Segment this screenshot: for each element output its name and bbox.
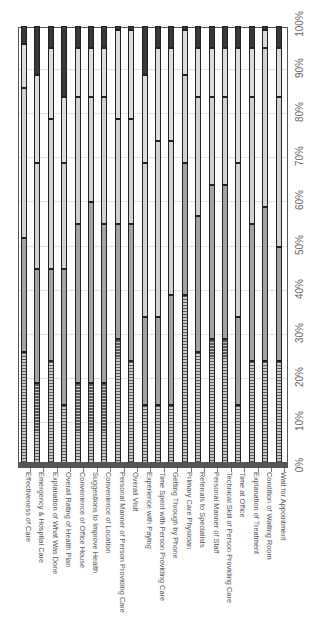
bar-segment-6 bbox=[168, 26, 174, 48]
x-tick bbox=[217, 468, 218, 472]
bar-segment-6 bbox=[209, 26, 215, 48]
bar-segment-5 bbox=[249, 48, 255, 97]
gridline bbox=[19, 334, 287, 335]
bar-segment-5 bbox=[21, 44, 27, 88]
bar-segment-6 bbox=[88, 26, 94, 48]
bar-segment-5 bbox=[195, 48, 201, 97]
bar-segment-5 bbox=[88, 48, 94, 97]
x-tick bbox=[271, 468, 272, 472]
x-tick bbox=[244, 468, 245, 472]
category-label: Personal Manner of Person Providing Care bbox=[118, 472, 126, 622]
bar-segment-5 bbox=[182, 30, 188, 74]
bar-segment-6 bbox=[34, 26, 40, 75]
category-label: Effectiveness of Care bbox=[24, 472, 32, 622]
category-label: Time at Office bbox=[238, 472, 246, 622]
category-label: Getting Through by Phone bbox=[171, 472, 179, 622]
bar-segment-3 bbox=[115, 224, 121, 339]
bar-segment-5 bbox=[235, 48, 241, 163]
category-label: Emergency & Hospital Care bbox=[37, 472, 45, 622]
stacked-bar bbox=[61, 28, 67, 467]
y-tick-label: 60% bbox=[294, 185, 308, 215]
bar-segment-3 bbox=[34, 269, 40, 384]
category-label: Referrals to Specialists bbox=[198, 472, 206, 622]
bar-segment-6 bbox=[235, 26, 241, 48]
bar-segment-3 bbox=[75, 224, 81, 383]
gridline bbox=[19, 422, 287, 423]
gridline bbox=[19, 201, 287, 202]
y-tick-label: 90% bbox=[294, 53, 308, 83]
x-tick bbox=[231, 468, 232, 472]
y-tick-label: 0% bbox=[294, 450, 308, 480]
gridline bbox=[19, 157, 287, 158]
category-label: Explanation of Treatment bbox=[252, 472, 260, 622]
category-label: Experience with Paying bbox=[145, 472, 153, 622]
stacked-bar bbox=[168, 28, 174, 467]
bar-segment-4 bbox=[249, 97, 255, 225]
bar-segment-5 bbox=[209, 48, 215, 97]
bar-segment-5 bbox=[48, 48, 54, 119]
bar-segment-4 bbox=[75, 97, 81, 225]
stacked-bar bbox=[195, 28, 201, 467]
category-label: Condition of Waiting Room bbox=[265, 472, 273, 622]
bar-segment-4 bbox=[235, 163, 241, 317]
stacked-bar bbox=[115, 28, 121, 467]
bar-segment-2 bbox=[142, 405, 148, 462]
bar-segment-2 bbox=[115, 339, 121, 462]
bar-segment-5 bbox=[75, 48, 81, 97]
bar-segment-4 bbox=[21, 88, 27, 238]
stacked-bar bbox=[209, 28, 215, 467]
bar-segment-2 bbox=[101, 383, 107, 462]
bar-segment-3 bbox=[21, 238, 27, 353]
bar-segment-6 bbox=[101, 26, 107, 48]
bar-segment-6 bbox=[142, 26, 148, 75]
bar-segment-4 bbox=[101, 97, 107, 225]
bar-segment-3 bbox=[209, 185, 215, 339]
bar-segment-2 bbox=[249, 361, 255, 462]
stacked-bar bbox=[88, 28, 94, 467]
bar-segment-6 bbox=[128, 26, 134, 30]
bar-segment-5 bbox=[115, 30, 121, 118]
bar-segment-6 bbox=[222, 26, 228, 48]
bar-segment-2 bbox=[195, 352, 201, 462]
gridline bbox=[19, 246, 287, 247]
bar-segment-4 bbox=[48, 119, 54, 269]
stacked-bar bbox=[48, 28, 54, 467]
bar-segment-5 bbox=[168, 48, 174, 141]
bar-segment-4 bbox=[61, 163, 67, 269]
x-tick bbox=[258, 468, 259, 472]
category-label: Overall Rating of Health Plan bbox=[64, 472, 72, 622]
y-tick-label: 80% bbox=[294, 97, 308, 127]
bar-segment-3 bbox=[155, 317, 161, 405]
stacked-bar bbox=[75, 28, 81, 467]
x-tick bbox=[30, 468, 31, 472]
bar-segment-5 bbox=[61, 97, 67, 163]
x-tick bbox=[43, 468, 44, 472]
stacked-bar bbox=[276, 28, 282, 467]
bar-segment-6 bbox=[182, 26, 188, 30]
x-tick bbox=[137, 468, 138, 472]
bar-segment-3 bbox=[235, 317, 241, 405]
bar-segment-3 bbox=[182, 163, 188, 295]
bar-segment-3 bbox=[222, 185, 228, 339]
bar-segment-3 bbox=[195, 216, 201, 353]
category-label: Overall Visit bbox=[131, 472, 139, 622]
bar-segment-2 bbox=[182, 295, 188, 463]
stacked-bar bbox=[235, 28, 241, 467]
bar-segment-5 bbox=[276, 48, 282, 97]
bar-segment-4 bbox=[34, 163, 40, 269]
y-tick-label: 70% bbox=[294, 141, 308, 171]
bar-segment-4 bbox=[262, 48, 268, 207]
bar-segment-4 bbox=[182, 75, 188, 163]
bar-segment-6 bbox=[48, 26, 54, 48]
y-tick-label: 10% bbox=[294, 406, 308, 436]
category-label: Suggestions to Improve Health bbox=[91, 472, 99, 622]
bar-segment-6 bbox=[21, 26, 27, 44]
bar-segment-6 bbox=[262, 26, 268, 30]
bar-segment-2 bbox=[235, 405, 241, 462]
bar-segment-3 bbox=[262, 207, 268, 361]
bar-segment-3 bbox=[61, 269, 67, 406]
bar-segment-6 bbox=[195, 26, 201, 48]
bar-segment-4 bbox=[128, 119, 134, 225]
bar-segment-2 bbox=[222, 339, 228, 462]
x-tick bbox=[204, 468, 205, 472]
